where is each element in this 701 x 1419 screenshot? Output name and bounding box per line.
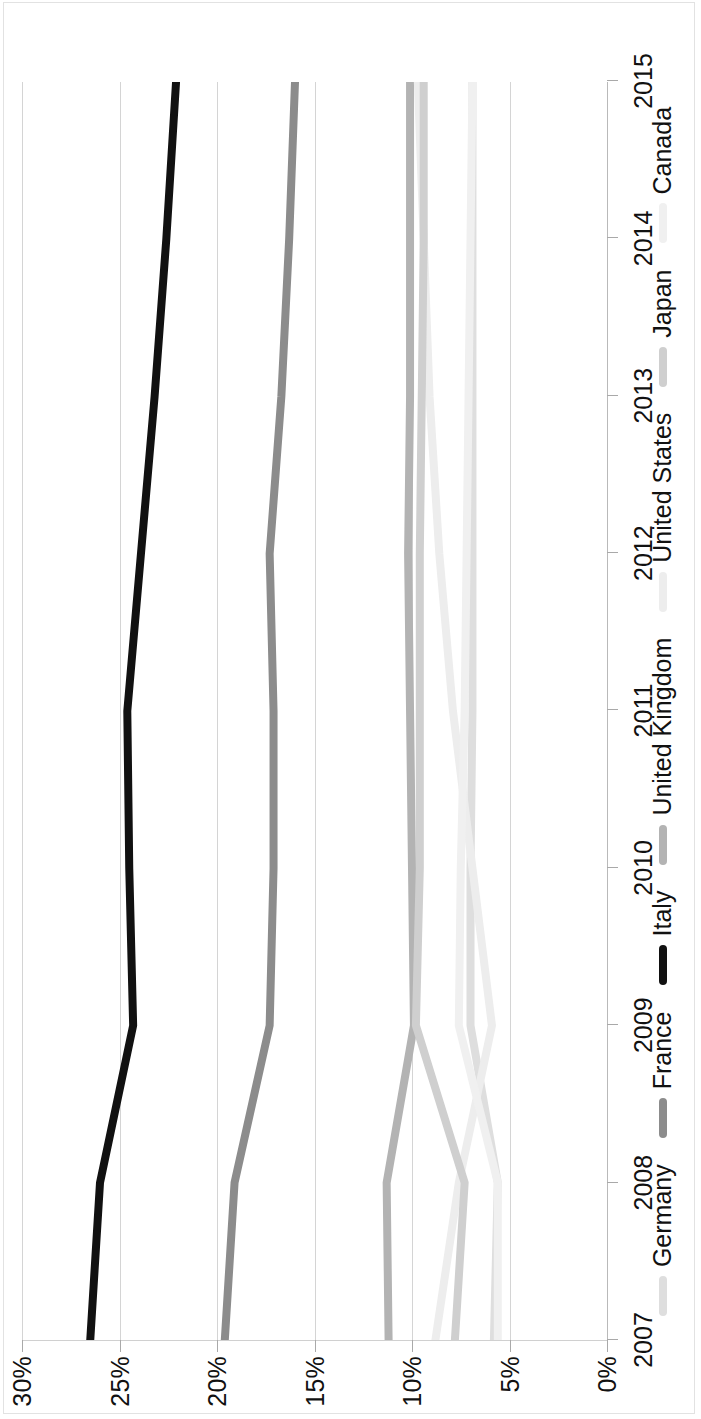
y-axis-label: 25% [105, 1356, 134, 1407]
legend-item-germany[interactable]: Germany [648, 1164, 677, 1316]
plot-area: 30%25%20%15%10%5%0% 20072008200920102011… [22, 82, 607, 1341]
y-axis-tick [217, 1340, 218, 1352]
y-axis-tick [120, 1340, 121, 1352]
legend-swatch-icon [659, 945, 667, 985]
chart-area: 30%25%20%15%10%5%0% 20072008200920102011… [0, 0, 701, 1419]
x-axis-tick [607, 710, 618, 711]
legend-item-france[interactable]: France [648, 1011, 677, 1138]
x-axis-tick [607, 395, 618, 396]
series-lines [22, 82, 607, 1340]
x-axis-tick [607, 867, 618, 868]
legend-item-italy[interactable]: Italy [648, 891, 677, 986]
legend-swatch-icon [659, 204, 667, 244]
gridline [607, 82, 608, 1340]
x-axis-tick [607, 80, 618, 81]
chart-legend: GermanyFranceItalyUnited KingdomUnited S… [648, 82, 677, 1341]
y-axis-label: 5% [495, 1356, 524, 1393]
legend-item-united-kingdom[interactable]: United Kingdom [648, 638, 677, 865]
legend-swatch-icon [659, 572, 667, 612]
y-axis-tick [412, 1340, 413, 1352]
x-axis-tick [607, 237, 618, 238]
series-line-france [225, 82, 295, 1340]
y-axis-label: 10% [398, 1356, 427, 1407]
y-axis-tick [607, 1340, 608, 1352]
legend-item-label: Canada [648, 107, 677, 195]
y-axis-label: 0% [593, 1356, 622, 1393]
x-axis-tick [607, 1182, 618, 1183]
x-axis-tick [607, 1024, 618, 1025]
series-line-japan [416, 82, 465, 1340]
legend-item-label: Japan [648, 270, 677, 338]
series-line-italy [90, 82, 176, 1340]
legend-swatch-icon [659, 1098, 667, 1138]
chart-page: 30%25%20%15%10%5%0% 20072008200920102011… [0, 0, 701, 1419]
legend-item-label: United Kingdom [648, 638, 677, 816]
legend-item-canada[interactable]: Canada [648, 107, 677, 244]
legend-item-label: France [648, 1011, 677, 1089]
legend-item-united-states[interactable]: United States [648, 413, 677, 612]
legend-swatch-icon [659, 825, 667, 865]
legend-item-japan[interactable]: Japan [648, 270, 677, 387]
rotated-chart-wrapper: 30%25%20%15%10%5%0% 20072008200920102011… [0, 0, 701, 1419]
legend-item-label: Italy [648, 891, 677, 937]
y-axis-tick [510, 1340, 511, 1352]
legend-swatch-icon [659, 347, 667, 387]
y-axis-label: 30% [8, 1356, 37, 1407]
x-axis-tick [607, 552, 618, 553]
legend-item-label: United States [648, 413, 677, 563]
legend-swatch-icon [659, 1276, 667, 1316]
y-axis-label: 20% [203, 1356, 232, 1407]
y-axis-tick [22, 1340, 23, 1352]
x-axis-tick [607, 1339, 618, 1340]
y-axis-label: 15% [300, 1356, 329, 1407]
series-line-united-kingdom [387, 82, 414, 1340]
y-axis-tick [315, 1340, 316, 1352]
legend-item-label: Germany [648, 1164, 677, 1267]
